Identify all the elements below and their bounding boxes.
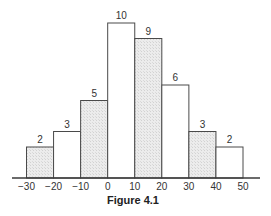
x-tick-label: −20 xyxy=(45,181,62,192)
x-tick-label: 50 xyxy=(237,181,249,192)
bar-value-label: 6 xyxy=(173,72,179,83)
bar-value-label: 3 xyxy=(200,119,206,130)
histogram-bar xyxy=(54,132,81,179)
bar-value-label: 10 xyxy=(116,10,128,21)
histogram-bar xyxy=(162,85,189,178)
x-tick-label: −30 xyxy=(18,181,35,192)
x-tick-label: 20 xyxy=(156,181,168,192)
x-tick-label: 30 xyxy=(183,181,195,192)
histogram-bar xyxy=(135,39,162,179)
histogram-bar xyxy=(108,23,135,178)
bar-value-label: 9 xyxy=(146,26,152,37)
bars-group xyxy=(27,23,244,178)
histogram-bar xyxy=(27,147,54,178)
histogram-bar xyxy=(81,101,108,179)
x-tick-label: 0 xyxy=(105,181,111,192)
x-tick-labels-group: −30−20−1001020304050 xyxy=(18,181,249,192)
bar-value-label: 2 xyxy=(227,134,233,145)
x-tick-label: −10 xyxy=(72,181,89,192)
x-tick-label: 40 xyxy=(210,181,222,192)
bar-value-label: 5 xyxy=(91,88,97,99)
histogram-bar xyxy=(216,147,243,178)
x-tick-label: 10 xyxy=(129,181,141,192)
histogram-bar xyxy=(189,132,216,179)
bar-value-label: 3 xyxy=(64,119,70,130)
bar-value-label: 2 xyxy=(37,134,43,145)
figure-caption: Figure 4.1 xyxy=(107,194,159,206)
histogram-chart: 235109632 −30−20−1001020304050 Figure 4.… xyxy=(0,0,271,216)
